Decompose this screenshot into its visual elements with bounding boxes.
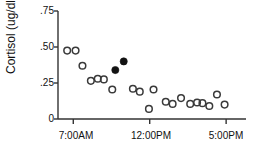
data-point-open <box>64 47 71 54</box>
data-point-open <box>72 47 79 54</box>
data-point-open <box>187 101 194 108</box>
data-point-open <box>136 88 143 95</box>
data-point-open <box>221 101 228 108</box>
data-point-open <box>178 95 185 102</box>
data-point-open <box>169 101 176 108</box>
data-point-open <box>150 86 157 93</box>
data-point-open <box>162 98 169 105</box>
data-point-filled <box>112 66 119 73</box>
data-point-open <box>109 86 116 93</box>
cortisol-scatter-chart: Cortisol (ug/dl) .75 .50 .25 0 7:00AM 12… <box>0 0 256 152</box>
data-point-filled <box>120 58 127 65</box>
data-point-open <box>146 106 153 113</box>
x-axis-ticks <box>73 119 226 124</box>
data-point-open <box>130 85 137 92</box>
data-point-open <box>79 62 86 69</box>
data-point-open <box>214 91 221 98</box>
data-point-open <box>206 103 213 110</box>
data-markers <box>64 47 228 112</box>
plot-area <box>0 0 256 152</box>
data-point-open <box>88 78 95 85</box>
